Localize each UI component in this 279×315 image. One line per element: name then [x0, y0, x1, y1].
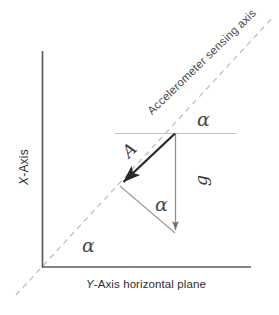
- y-axis-label: Y-Axis horizontal plane: [86, 278, 206, 290]
- accelerometer-tilt-diagram: Accelerometer sensing axis α α α A g X-A…: [0, 0, 279, 315]
- y-axis-label-prefix: Y: [86, 278, 94, 290]
- angle-label-bottom: α: [82, 234, 95, 256]
- x-axis-label: X-Axis: [17, 149, 31, 185]
- diagram-canvas: [0, 0, 279, 315]
- sensing-axis-dashed-line: [16, 16, 274, 295]
- gravity-vector-label: g: [191, 175, 211, 186]
- x-axis-label-prefix: X: [17, 177, 31, 185]
- angle-label-middle: α: [155, 193, 168, 215]
- angle-label-top: α: [197, 108, 210, 130]
- y-axis-label-suffix: -Axis horizontal plane: [94, 278, 206, 290]
- x-axis-label-suffix: -Axis: [17, 149, 31, 177]
